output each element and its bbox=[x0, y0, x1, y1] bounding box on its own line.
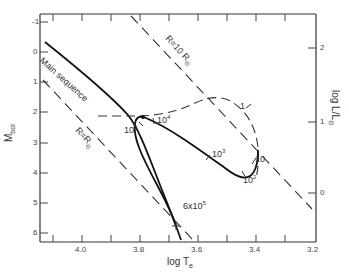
y-tick-label: 0 bbox=[33, 48, 37, 56]
y-axis-title: Mbol bbox=[4, 124, 16, 142]
age-label-1e3: 103 bbox=[212, 148, 225, 159]
x-tick-label: 3.4 bbox=[249, 246, 260, 254]
y-tick-label: 5 bbox=[33, 199, 37, 207]
y-tick-label: 4 bbox=[33, 169, 37, 177]
age-label-10: 10 bbox=[255, 155, 265, 164]
y-tick-label: 2 bbox=[33, 108, 37, 116]
x-tick-label: 3.2 bbox=[307, 246, 318, 254]
x-tick-label: 4.0 bbox=[75, 246, 86, 254]
x-tick-label: 3.8 bbox=[133, 246, 144, 254]
y-tick-label: -1 bbox=[32, 18, 39, 26]
main-sequence-curve bbox=[45, 42, 181, 240]
y2-tick-label: 2 bbox=[320, 44, 324, 52]
x-tick-label: 3.6 bbox=[191, 246, 202, 254]
age-label-1e5: 105 bbox=[124, 124, 137, 135]
age-label-1e4: 104 bbox=[157, 114, 170, 125]
age-label-1: 1 bbox=[240, 102, 245, 111]
x-axis-title: log Te bbox=[167, 257, 193, 269]
y-tick-label: 1 bbox=[33, 78, 37, 86]
age-label-6e5: 6x105 bbox=[183, 200, 206, 211]
x-axis-ticks bbox=[53, 235, 285, 242]
track-point-1e5 bbox=[141, 115, 145, 119]
y2-axis-ticks bbox=[308, 48, 316, 193]
age-label-1e2: 102 bbox=[243, 174, 256, 185]
x-axis-top-ticks bbox=[53, 14, 285, 21]
y-tick-label: 3 bbox=[33, 139, 37, 147]
y-axis-ticks bbox=[40, 22, 48, 233]
y2-axis-title: log L/L⊙ bbox=[328, 90, 340, 126]
y2-tick-label: 0 bbox=[320, 189, 324, 197]
y-tick-label: 6 bbox=[33, 229, 37, 237]
y2-tick-label: 1 bbox=[320, 118, 324, 126]
